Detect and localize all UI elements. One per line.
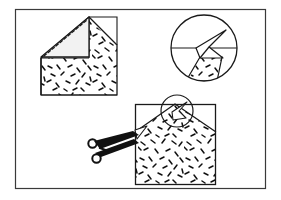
figure-canvas: Folding and cutting construction diagram… bbox=[0, 0, 281, 200]
construction-diagram bbox=[0, 0, 281, 200]
